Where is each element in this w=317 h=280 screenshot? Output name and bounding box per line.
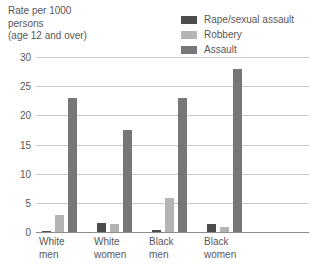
- x-axis-label: White women: [94, 236, 126, 261]
- x-axis-label: White men: [39, 236, 65, 261]
- legend-label: Assault: [204, 44, 237, 55]
- y-axis-tick-label: 10: [1, 168, 31, 179]
- x-axis-labels: White menWhite womenBlack menBlack women: [36, 236, 309, 276]
- axis-baseline: [36, 232, 309, 233]
- legend-swatch-icon: [181, 31, 197, 39]
- bar: [97, 223, 106, 232]
- legend-label: Robbery: [204, 29, 242, 40]
- bar: [220, 227, 229, 232]
- y-axis-tick-label: 0: [1, 227, 31, 238]
- y-axis-tick-label: 20: [1, 110, 31, 121]
- legend-swatch-icon: [181, 16, 197, 24]
- bar: [165, 198, 174, 232]
- gridline: [36, 86, 309, 87]
- x-axis-label: Black men: [149, 236, 173, 261]
- bar: [55, 215, 64, 233]
- bar: [68, 98, 77, 232]
- bar: [207, 224, 216, 232]
- y-axis-tick-label: 25: [1, 81, 31, 92]
- plot-area: 051015202530: [36, 57, 309, 232]
- y-axis-caption: Rate per 1000 persons (age 12 and over): [8, 5, 158, 43]
- bar: [42, 231, 51, 232]
- legend-item: Assault: [181, 42, 313, 57]
- bar: [152, 230, 161, 232]
- bar: [233, 69, 242, 232]
- gridline: [36, 57, 309, 58]
- bar: [110, 224, 119, 232]
- x-axis-label: Black women: [204, 236, 236, 261]
- y-axis-tick-label: 15: [1, 139, 31, 150]
- chart-legend: Rape/sexual assaultRobberyAssault: [181, 12, 313, 57]
- bar: [123, 130, 132, 232]
- y-axis-tick-label: 30: [1, 52, 31, 63]
- legend-label: Rape/sexual assault: [204, 14, 294, 25]
- legend-item: Robbery: [181, 27, 313, 42]
- bar: [178, 98, 187, 232]
- legend-swatch-icon: [181, 46, 197, 54]
- chart-screenshot: Rate per 1000 persons (age 12 and over) …: [0, 0, 317, 280]
- y-axis-tick-label: 5: [1, 197, 31, 208]
- legend-item: Rape/sexual assault: [181, 12, 313, 27]
